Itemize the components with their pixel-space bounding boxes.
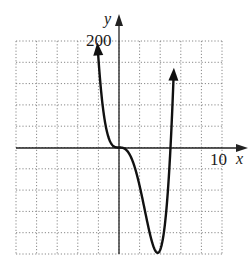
y-axis-label: y xyxy=(102,10,112,28)
function-graph: y 200 10 x xyxy=(0,0,250,264)
y-max-tick-label: 200 xyxy=(86,31,112,50)
x-max-tick-label: 10 xyxy=(210,150,227,169)
curve-arrow-right-icon xyxy=(168,68,178,81)
x-axis-label: x xyxy=(235,150,243,167)
axes xyxy=(16,14,248,254)
y-axis-arrow-icon xyxy=(115,14,123,26)
function-curve xyxy=(98,50,174,252)
